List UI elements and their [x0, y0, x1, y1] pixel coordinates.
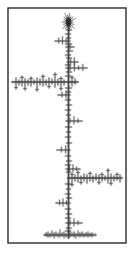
figure-container — [0, 0, 134, 257]
fractal-figure-svg — [0, 0, 134, 257]
